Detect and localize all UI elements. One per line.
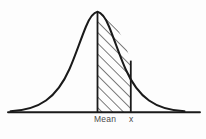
mean-label: Mean bbox=[94, 114, 116, 124]
x-label: x bbox=[129, 114, 133, 124]
bell-curve-figure: Mean x bbox=[0, 0, 206, 139]
